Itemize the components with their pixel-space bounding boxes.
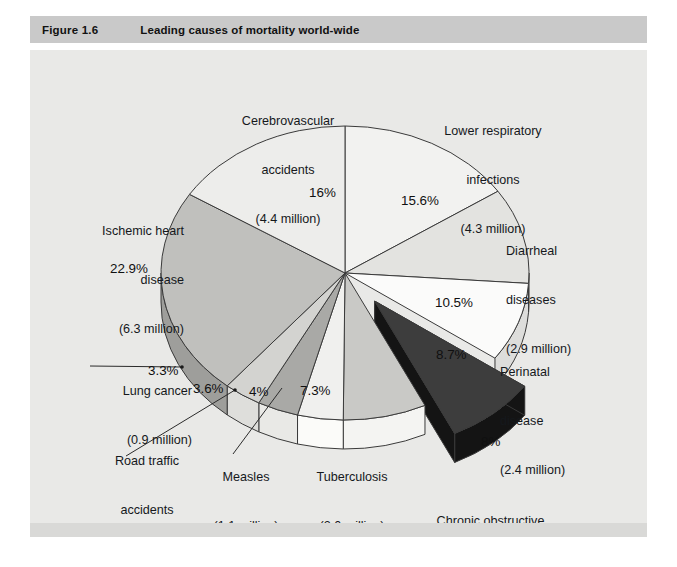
percent-cerebrovascular-accidents: 16% xyxy=(309,185,336,200)
percent-road-traffic-accidents: 3.6% xyxy=(193,381,224,396)
label-cerebrovascular-accidents: Cerebrovascular accidents (4.4 million) xyxy=(198,80,378,260)
percent-lung-cancer: 3.3% xyxy=(148,363,179,378)
figure-header-bar: Figure 1.6 Leading causes of mortality w… xyxy=(30,16,647,43)
percent-lower-respiratory-infections: 15.6% xyxy=(401,193,439,208)
label-tuberculosis: Tuberculosis (2.0 million) xyxy=(292,436,412,537)
percent-diarrheal-diseases: 10.5% xyxy=(435,295,473,310)
figure-number: Figure 1.6 xyxy=(42,24,98,36)
label-ischemic-heart-disease: Ischemic heart disease (6.3 million) xyxy=(32,190,184,370)
figure-title: Leading causes of mortality world-wide xyxy=(140,24,359,36)
label-measles: Measles (1.1 million) xyxy=(194,436,298,537)
percent-ischemic-heart-disease: 22.9% xyxy=(110,261,148,276)
percent-tuberculosis: 7.3% xyxy=(300,383,331,398)
figure-root: Figure 1.6 Leading causes of mortality w… xyxy=(0,0,677,567)
percent-measles: 4% xyxy=(249,384,268,399)
chart-canvas: Cerebrovascular accidents (4.4 million) … xyxy=(30,50,647,537)
leader-line-dot xyxy=(233,388,237,392)
percent-chronic-obstructive-pulmonary-disease: 8% xyxy=(481,434,500,449)
figure-footer-strip xyxy=(30,523,647,537)
percent-perinatal-disease: 8.7% xyxy=(436,347,467,362)
